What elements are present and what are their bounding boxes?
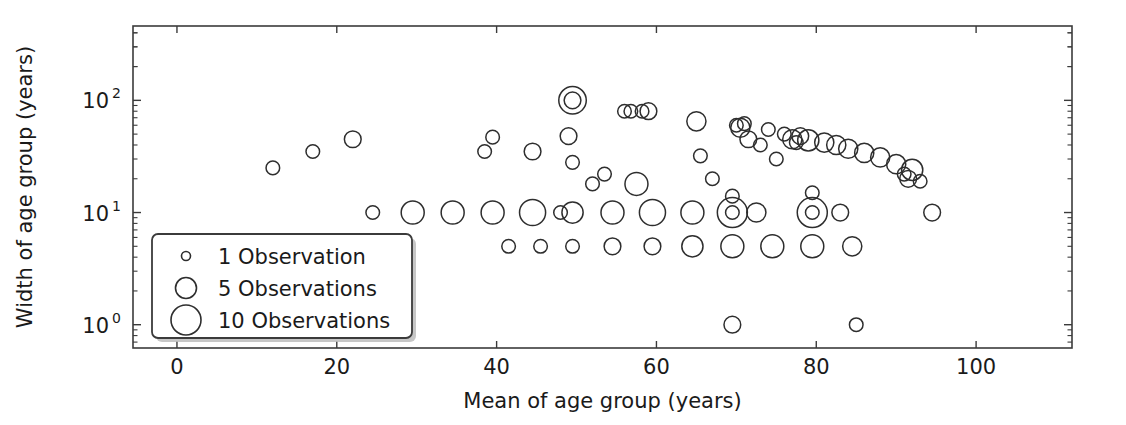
- legend-item-label: 10 Observations: [218, 309, 390, 333]
- x-tick-label-100: 100: [956, 355, 996, 379]
- x-tick-label-60: 60: [643, 355, 670, 379]
- data-bubble: [266, 161, 280, 175]
- data-bubble: [306, 145, 320, 159]
- data-bubble: [566, 156, 580, 170]
- data-bubble: [681, 201, 704, 224]
- legend-item-label: 1 Observation: [218, 245, 366, 269]
- data-bubble: [564, 92, 581, 109]
- data-bubble: [724, 316, 741, 333]
- axis-labels-group: Mean of age group (years)Width of age gr…: [13, 46, 742, 413]
- scatter-plot-figure: 020406080100100101102 Mean of age group …: [0, 0, 1126, 425]
- data-bubble: [559, 87, 587, 115]
- data-bubble: [797, 198, 827, 228]
- data-bubble: [706, 172, 720, 186]
- y-axis-label: Width of age group (years): [13, 46, 37, 328]
- data-bubble: [625, 172, 648, 195]
- data-bubble: [717, 198, 747, 228]
- data-bubble: [731, 118, 750, 137]
- y-tick-exponent: 2: [112, 85, 121, 101]
- data-bubble: [762, 123, 776, 137]
- x-tick-label-80: 80: [803, 355, 830, 379]
- data-bubble: [644, 238, 661, 255]
- data-bubble: [481, 201, 504, 224]
- data-bubble: [843, 237, 862, 256]
- y-tick-label-10^0: 100: [82, 310, 121, 338]
- data-bubble: [554, 206, 568, 220]
- data-bubble: [770, 152, 784, 166]
- y-tick-mantissa: 10: [82, 202, 109, 226]
- data-bubble: [815, 133, 834, 152]
- data-bubble: [601, 201, 624, 224]
- y-tick-exponent: 0: [112, 310, 121, 326]
- data-bubble: [726, 189, 740, 203]
- data-bubble: [586, 177, 600, 191]
- data-bubble: [562, 202, 583, 223]
- legend-item-label: 5 Observations: [218, 277, 377, 301]
- data-bubble: [849, 318, 863, 332]
- plot-canvas: 020406080100100101102 Mean of age group …: [0, 0, 1126, 425]
- x-tick-label-20: 20: [323, 355, 350, 379]
- data-bubble: [747, 203, 766, 222]
- data-bubble: [441, 201, 464, 224]
- x-axis-label: Mean of age group (years): [463, 389, 741, 413]
- x-tick-label-0: 0: [170, 355, 183, 379]
- data-bubble: [604, 238, 621, 255]
- data-bubble: [827, 135, 846, 154]
- data-bubble: [366, 206, 380, 220]
- data-bubble: [401, 201, 424, 224]
- data-bubble: [344, 131, 361, 148]
- data-bubble: [682, 236, 703, 257]
- data-bubble: [832, 204, 849, 221]
- y-tick-mantissa: 10: [82, 89, 109, 113]
- data-bubble: [534, 240, 548, 254]
- data-bubble: [524, 143, 541, 160]
- y-tick-exponent: 1: [112, 198, 121, 214]
- data-bubble: [560, 128, 577, 145]
- data-bubble: [761, 235, 784, 258]
- x-tick-label-40: 40: [483, 355, 510, 379]
- data-bubble: [726, 206, 740, 220]
- data-bubble: [694, 149, 708, 163]
- y-tick-label-10^1: 101: [82, 198, 121, 226]
- y-tick-mantissa: 10: [82, 314, 109, 338]
- data-bubble: [502, 240, 516, 254]
- data-bubble: [478, 145, 492, 159]
- data-bubble: [598, 167, 612, 181]
- data-bubble: [566, 240, 580, 254]
- data-bubble: [754, 138, 768, 152]
- y-tick-label-10^2: 102: [82, 85, 121, 113]
- data-bubble: [639, 199, 665, 225]
- data-bubble: [801, 235, 824, 258]
- data-bubble: [721, 235, 744, 258]
- data-bubble: [520, 199, 546, 225]
- data-bubble: [924, 204, 941, 221]
- legend[interactable]: 1 Observation5 Observations10 Observatio…: [152, 234, 416, 342]
- data-bubble: [486, 130, 500, 144]
- data-bubble: [805, 206, 819, 220]
- data-bubble: [687, 112, 706, 131]
